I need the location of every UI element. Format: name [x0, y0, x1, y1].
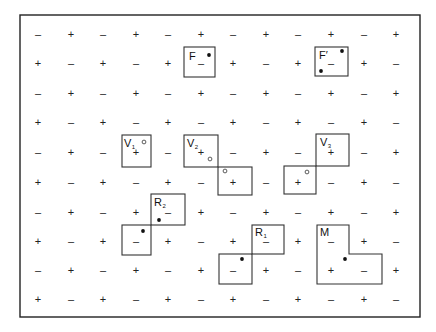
- minus-sign: –: [361, 87, 368, 99]
- figure-label: V2: [187, 137, 199, 150]
- plus-sign: +: [35, 116, 41, 128]
- minus-sign: –: [393, 293, 400, 305]
- minus-sign: –: [393, 57, 400, 69]
- minus-sign: –: [35, 206, 42, 218]
- minus-sign: –: [133, 116, 140, 128]
- minus-sign: –: [393, 176, 400, 188]
- plus-sign: +: [165, 293, 171, 305]
- plus-sign: +: [230, 176, 236, 188]
- figure-label: V1: [124, 137, 136, 150]
- minus-sign: –: [165, 146, 172, 158]
- minus-sign: –: [393, 116, 400, 128]
- figure-v3: V3: [284, 134, 349, 194]
- minus-sign: –: [230, 28, 237, 40]
- plus-sign: +: [35, 293, 41, 305]
- minus-sign: –: [165, 264, 172, 276]
- filled-dot-icon: [157, 218, 161, 222]
- plus-sign: +: [100, 235, 106, 247]
- minus-sign: –: [68, 176, 75, 188]
- figure-group: FF′V1V2V3R2R1M: [122, 47, 382, 284]
- filled-dot-icon: [319, 69, 323, 73]
- plus-sign: +: [328, 264, 334, 276]
- minus-sign: –: [295, 87, 302, 99]
- minus-sign: –: [100, 264, 107, 276]
- minus-sign: –: [328, 116, 335, 128]
- plus-sign: +: [230, 57, 236, 69]
- plus-sign: +: [133, 264, 139, 276]
- minus-sign: –: [198, 235, 205, 247]
- minus-sign: –: [133, 57, 140, 69]
- minus-sign: –: [100, 146, 107, 158]
- minus-sign: –: [133, 176, 140, 188]
- plus-sign: +: [263, 146, 269, 158]
- plus-sign: +: [361, 116, 367, 128]
- plus-sign: +: [393, 87, 399, 99]
- minus-sign: –: [230, 87, 237, 99]
- plus-sign: +: [295, 293, 301, 305]
- plus-sign: +: [133, 28, 139, 40]
- plus-sign: +: [393, 28, 399, 40]
- minus-sign: –: [263, 57, 270, 69]
- figure-label: R2: [154, 196, 166, 209]
- minus-sign: –: [68, 57, 75, 69]
- plus-sign: +: [393, 264, 399, 276]
- plus-sign: +: [165, 235, 171, 247]
- plus-sign: +: [35, 57, 41, 69]
- plus-sign: +: [100, 57, 106, 69]
- plus-sign: +: [263, 206, 269, 218]
- plus-sign: +: [263, 264, 269, 276]
- figure-label: R1: [255, 226, 267, 239]
- minus-sign: –: [35, 28, 42, 40]
- minus-sign: –: [361, 146, 368, 158]
- minus-sign: –: [263, 116, 270, 128]
- minus-sign: –: [230, 206, 237, 218]
- plus-sign: +: [393, 146, 399, 158]
- figure-label: F′: [319, 49, 328, 61]
- minus-sign: –: [361, 264, 368, 276]
- open-dot-icon: [223, 169, 227, 173]
- minus-sign: –: [263, 176, 270, 188]
- minus-sign: –: [68, 116, 75, 128]
- plus-sign: +: [328, 28, 334, 40]
- minus-sign: –: [295, 28, 302, 40]
- minus-sign: –: [165, 87, 172, 99]
- minus-sign: –: [361, 28, 368, 40]
- figure-label: F: [189, 50, 196, 62]
- minus-sign: –: [198, 116, 205, 128]
- plus-sign: +: [100, 116, 106, 128]
- minus-sign: –: [361, 206, 368, 218]
- plus-sign: +: [165, 57, 171, 69]
- plus-sign: +: [198, 146, 204, 158]
- minus-sign: –: [328, 57, 335, 69]
- minus-sign: –: [230, 264, 237, 276]
- plus-sign: +: [263, 28, 269, 40]
- filled-dot-icon: [141, 229, 145, 233]
- minus-sign: –: [133, 235, 140, 247]
- filled-dot-icon: [240, 257, 244, 261]
- minus-sign: –: [198, 57, 205, 69]
- plus-sign: +: [35, 235, 41, 247]
- plus-sign: +: [198, 264, 204, 276]
- minus-sign: –: [328, 293, 335, 305]
- plus-sign: +: [100, 293, 106, 305]
- plus-sign: +: [230, 235, 236, 247]
- minus-sign: –: [328, 176, 335, 188]
- figure-v2: V2: [184, 135, 252, 195]
- figure-m: M: [317, 225, 382, 284]
- plus-sign: +: [263, 87, 269, 99]
- minus-sign: –: [100, 206, 107, 218]
- plus-sign: +: [230, 116, 236, 128]
- plus-sign: +: [35, 176, 41, 188]
- plus-sign: +: [165, 116, 171, 128]
- minus-sign: –: [35, 264, 42, 276]
- minus-sign: –: [198, 293, 205, 305]
- minus-sign: –: [198, 176, 205, 188]
- plus-sign: +: [165, 176, 171, 188]
- open-dot-icon: [208, 157, 212, 161]
- figure-r2: R2: [122, 194, 185, 255]
- minus-sign: –: [68, 235, 75, 247]
- figure-label: V3: [320, 136, 332, 149]
- checkerboard-figure-diagram: –+–+–+–+–+–++–+–+–+–+–+––+–+–+–+–+–++–+–…: [0, 0, 436, 332]
- figure-label: M: [320, 226, 329, 238]
- plus-sign: +: [328, 206, 334, 218]
